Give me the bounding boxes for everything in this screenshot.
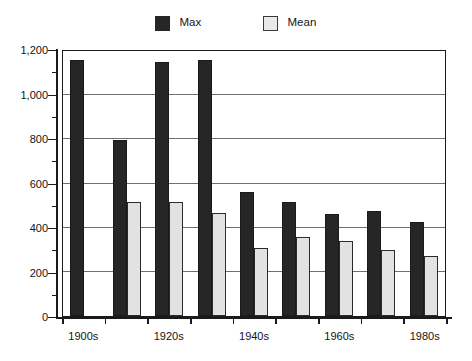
y-axis: 02004006008001,0001,200 (0, 0, 62, 361)
legend-item-max: Max (155, 16, 201, 31)
bar-mean-1960s (339, 241, 353, 316)
x-axis-label-1940s: 1940s (239, 331, 269, 342)
bar-mean-1940s (254, 248, 268, 316)
bar-group-1940s (233, 51, 275, 316)
bar-max-1960s (325, 214, 339, 316)
bar-mean-1980s (424, 256, 438, 316)
bar-mean-1970s (381, 250, 395, 316)
mean-swatch-icon (263, 16, 278, 31)
bar-max-1940s (240, 192, 254, 316)
x-tick-4 (233, 318, 235, 324)
x-tick-8 (403, 318, 405, 324)
legend-item-mean: Mean (263, 16, 316, 31)
legend-label-mean: Mean (287, 17, 316, 29)
y-tick-label-200: 200 (30, 267, 48, 278)
bar-max-1980s (410, 222, 424, 316)
y-axis-line (56, 49, 58, 318)
x-tick-9 (446, 318, 448, 324)
x-tick-0 (62, 318, 64, 324)
bar-chart: Max Mean 02004006008001,0001,200 1900s19… (0, 0, 472, 361)
x-axis-line (56, 317, 452, 319)
bar-mean-1920s (169, 202, 183, 316)
plot-area (62, 50, 446, 317)
x-tick-5 (275, 318, 277, 324)
x-tick-2 (147, 318, 149, 324)
bar-group-1970s (360, 51, 402, 316)
bar-max-1910s (113, 140, 127, 316)
bar-group-1960s (318, 51, 360, 316)
chart-legend: Max Mean (0, 11, 472, 35)
bar-group-1920s (148, 51, 190, 316)
bar-groups (63, 51, 445, 316)
max-swatch-icon (155, 16, 170, 31)
y-tick-label-1200: 1,200 (20, 45, 48, 56)
bar-max-1900s (70, 60, 84, 316)
x-tick-7 (361, 318, 363, 324)
bar-max-1970s (367, 211, 381, 316)
legend-label-max: Max (179, 17, 201, 29)
bar-max-1920s (155, 62, 169, 316)
x-tick-6 (318, 318, 320, 324)
bar-group-1910s (105, 51, 147, 316)
x-axis-label-1980s: 1980s (410, 331, 440, 342)
x-axis-label-1960s: 1960s (324, 331, 354, 342)
bar-mean-1910s (127, 202, 141, 316)
bar-group-1980s (403, 51, 445, 316)
x-tick-1 (105, 318, 107, 324)
x-tick-3 (190, 318, 192, 324)
x-axis-label-1920s: 1920s (154, 331, 184, 342)
bar-max-1950s (282, 202, 296, 316)
x-axis-label-1900s: 1900s (68, 331, 98, 342)
bar-max-1930s (198, 60, 212, 316)
bar-group-1930s (190, 51, 232, 316)
y-tick-label-400: 400 (30, 223, 48, 234)
bar-mean-1950s (296, 237, 310, 317)
bar-mean-1930s (212, 213, 226, 316)
y-tick-label-1000: 1,000 (20, 89, 48, 100)
bar-group-1950s (275, 51, 317, 316)
bar-group-1900s (63, 51, 105, 316)
y-tick-label-600: 600 (30, 178, 48, 189)
y-tick-label-800: 800 (30, 134, 48, 145)
